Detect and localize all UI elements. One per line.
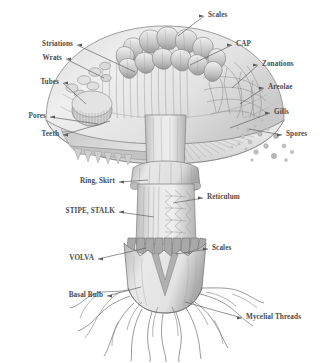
label-wrats: Wrats [42,55,62,62]
mushroom-anatomy-diagram: Scales CAP Zonations Areolae Gills Spore… [0,0,330,363]
label-gills: Gills [274,109,289,116]
label-scales-stem: Scales [212,245,231,252]
label-cap: CAP [236,41,251,48]
label-spores: Spores [286,131,307,138]
label-reticulum: Reticulum [207,194,240,201]
label-basal-bulb: Basal Bulb [69,292,103,299]
label-zonations: Zonations [262,61,294,68]
label-scales-cap: Scales [208,12,227,19]
label-striations: Striations [42,41,73,48]
stipe-lower [136,184,196,244]
label-mycelial-threads: Mycelial Threads [246,314,301,321]
label-teeth: Teeth [42,131,59,138]
label-pores: Pores [28,113,46,120]
label-areolae: Areolae [268,84,293,91]
label-volva: VOLVA [69,255,94,262]
tubes-surface [72,91,112,126]
label-stipe-stalk: STIPE, STALK [66,208,115,215]
label-ring-skirt: Ring, Skirt [80,178,115,185]
label-tubes: Tubes [40,79,59,86]
volva-cup [124,243,206,313]
